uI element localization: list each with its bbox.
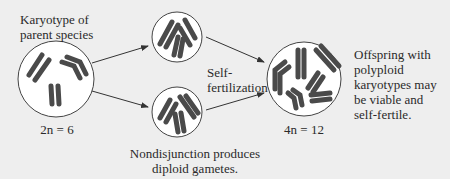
offspring-line1: Offspring with	[354, 47, 437, 62]
gamete-circle-bottom	[152, 87, 202, 137]
self-fertilization-label: Self- fertilization	[207, 65, 268, 95]
nondisjunction-line2: diploid gametes.	[100, 161, 290, 176]
offspring-line4: be viable and	[354, 92, 437, 107]
offspring-line3: karyotypes may	[354, 77, 437, 92]
self-fert-line1: Self-	[207, 65, 268, 80]
nondisjunction-label: Nondisjunction produces diploid gametes.	[100, 146, 290, 176]
arrow-gamete-top-to-offspring	[206, 37, 264, 62]
parent-karyotype-circle	[18, 41, 94, 117]
arrow-parent-to-gamete-top	[92, 46, 148, 63]
parent-label-line2: parent species	[20, 27, 93, 42]
arrow-gamete-bottom-to-offspring	[206, 93, 264, 110]
self-fert-line2: fertilization	[207, 80, 268, 95]
offspring-karyotype-circle	[267, 42, 341, 116]
parent-ploidy-label: 2n = 6	[32, 122, 82, 137]
gamete-circle-top	[152, 12, 202, 62]
offspring-ploidy-label: 4n = 12	[278, 122, 330, 137]
nondisjunction-line1: Nondisjunction produces	[100, 146, 290, 161]
offspring-label: Offspring with polyploid karyotypes may …	[354, 47, 437, 122]
offspring-line2: polyploid	[354, 62, 437, 77]
offspring-line5: self-fertile.	[354, 107, 437, 122]
arrow-parent-to-gamete-bottom	[92, 91, 148, 107]
parent-label: Karyotype of parent species	[20, 12, 93, 42]
parent-label-line1: Karyotype of	[20, 12, 93, 27]
